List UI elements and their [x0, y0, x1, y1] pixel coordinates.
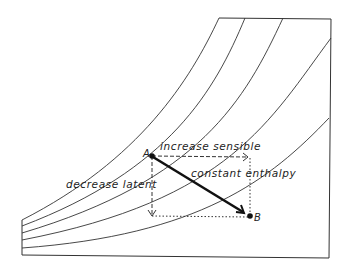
- decrease-latent-label: decrease latent: [66, 178, 157, 190]
- constant-enthalpy-label: constant enthalpy: [191, 167, 296, 179]
- psychrometric-diagram: A B increase sensible decrease latent co…: [0, 0, 349, 275]
- right-edge: [329, 19, 331, 258]
- point-b-label: B: [254, 212, 261, 223]
- bottom-edge: [22, 255, 329, 258]
- bottom-dotted-line: [152, 216, 248, 217]
- rh-curve-3: [22, 38, 331, 240]
- humidity-curves: [22, 18, 331, 248]
- sensible-arrow-line: [152, 156, 247, 157]
- top-edge: [219, 18, 331, 19]
- enthalpy-arrow-line: [153, 157, 243, 212]
- constant-enthalpy-arrow: [153, 157, 244, 213]
- point-b-marker: [247, 213, 253, 219]
- point-a-marker: [149, 153, 155, 159]
- chart-frame: [22, 18, 331, 258]
- increase-sensible-label: increase sensible: [160, 140, 261, 152]
- point-a-label: A: [142, 148, 150, 159]
- rh-curve-1: [22, 18, 245, 226]
